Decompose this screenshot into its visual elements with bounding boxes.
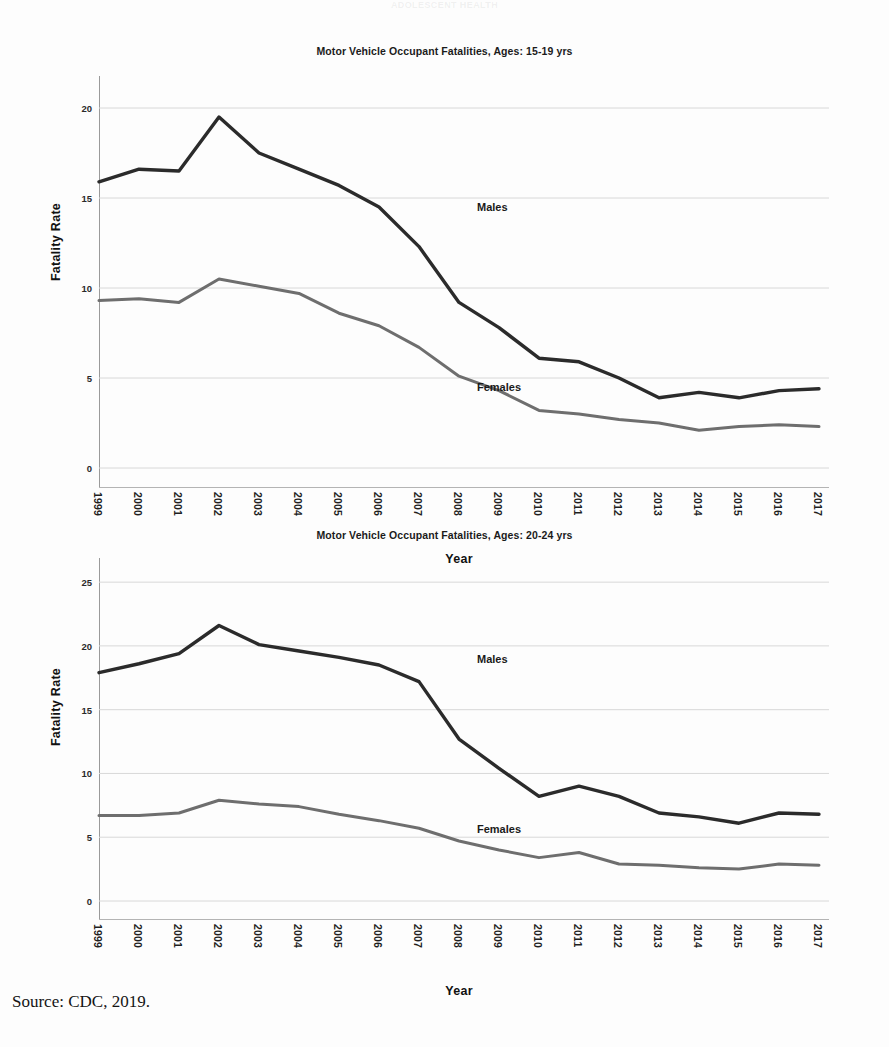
x-tick-label: 2006: [372, 492, 384, 516]
x-tick-label: 2000: [132, 492, 144, 516]
x-tick-label: 2003: [252, 924, 264, 948]
x-tick-label: 2008: [452, 924, 464, 948]
y-tick-label: 0: [62, 896, 92, 907]
y-axis-ticks: 05101520: [58, 40, 92, 530]
x-tick-label: 2015: [732, 924, 744, 948]
x-tick-label: 2015: [732, 492, 744, 516]
chart-panel-ages-15-19: Motor Vehicle Occupant Fatalities, Ages:…: [0, 40, 889, 530]
x-tick-label: 2000: [132, 924, 144, 948]
x-tick-label: 2014: [692, 924, 704, 948]
x-tick-label: 2013: [652, 492, 664, 516]
y-tick-label: 15: [62, 704, 92, 715]
y-tick-label: 25: [62, 577, 92, 588]
y-tick-label: 5: [62, 373, 92, 384]
plot-area: MalesFemales: [99, 563, 819, 901]
series-line-females: [99, 800, 819, 869]
x-tick-label: 2002: [212, 492, 224, 516]
source-note: Source: CDC, 2019.: [12, 992, 150, 1012]
x-tick-label: 2010: [532, 492, 544, 516]
y-tick-label: 20: [62, 640, 92, 651]
x-tick-label: 2004: [292, 924, 304, 948]
plot-svg: [99, 563, 819, 901]
chart-title: Motor Vehicle Occupant Fatalities, Ages:…: [0, 529, 889, 541]
y-tick-label: 10: [62, 768, 92, 779]
x-tick-label: 2012: [612, 492, 624, 516]
x-axis-spine: [99, 487, 829, 488]
x-axis-spine: [99, 919, 829, 920]
series-annotation-males: Males: [477, 201, 508, 213]
x-tick-label: 2002: [212, 924, 224, 948]
x-tick-label: 2017: [812, 924, 824, 948]
x-tick-label: 2011: [572, 492, 584, 516]
x-tick-label: 2001: [172, 492, 184, 516]
x-tick-label: 1999: [92, 924, 104, 948]
x-axis-title: Year: [99, 984, 819, 998]
y-tick-label: 0: [62, 463, 92, 474]
x-tick-label: 2006: [372, 924, 384, 948]
series-line-males: [99, 117, 819, 398]
y-axis-ticks: 0510152025: [58, 525, 92, 975]
series-annotation-females: Females: [477, 823, 521, 835]
plot-svg: [99, 81, 819, 468]
y-tick-label: 5: [62, 832, 92, 843]
y-tick-label: 10: [62, 283, 92, 294]
x-tick-label: 2007: [412, 492, 424, 516]
chart-panel-ages-20-24: Motor Vehicle Occupant Fatalities, Ages:…: [0, 525, 889, 975]
series-annotation-females: Females: [477, 381, 521, 393]
series-annotation-males: Males: [477, 653, 508, 665]
x-tick-label: 2009: [492, 924, 504, 948]
x-tick-label: 2011: [572, 924, 584, 948]
x-tick-label: 2013: [652, 924, 664, 948]
figure-page: ADOLESCENT HEALTH Motor Vehicle Occupant…: [0, 0, 889, 1047]
x-tick-label: 2004: [292, 492, 304, 516]
x-tick-label: 2005: [332, 924, 344, 948]
x-tick-label: 2012: [612, 924, 624, 948]
x-tick-label: 2008: [452, 492, 464, 516]
y-tick-label: 15: [62, 193, 92, 204]
x-tick-label: 2001: [172, 924, 184, 948]
x-tick-label: 2016: [772, 924, 784, 948]
x-tick-label: 2017: [812, 492, 824, 516]
plot-area: MalesFemales: [99, 81, 819, 468]
chart-title: Motor Vehicle Occupant Fatalities, Ages:…: [0, 45, 889, 57]
x-axis-ticks: 1999200020012002200320042005200620072008…: [99, 924, 819, 984]
x-tick-label: 1999: [92, 492, 104, 516]
x-tick-label: 2007: [412, 924, 424, 948]
x-tick-label: 2009: [492, 492, 504, 516]
x-tick-label: 2003: [252, 492, 264, 516]
x-tick-label: 2016: [772, 492, 784, 516]
x-tick-label: 2005: [332, 492, 344, 516]
y-tick-label: 20: [62, 103, 92, 114]
series-line-males: [99, 626, 819, 824]
x-tick-label: 2014: [692, 492, 704, 516]
x-tick-label: 2010: [532, 924, 544, 948]
ghost-page-header: ADOLESCENT HEALTH: [0, 0, 889, 10]
